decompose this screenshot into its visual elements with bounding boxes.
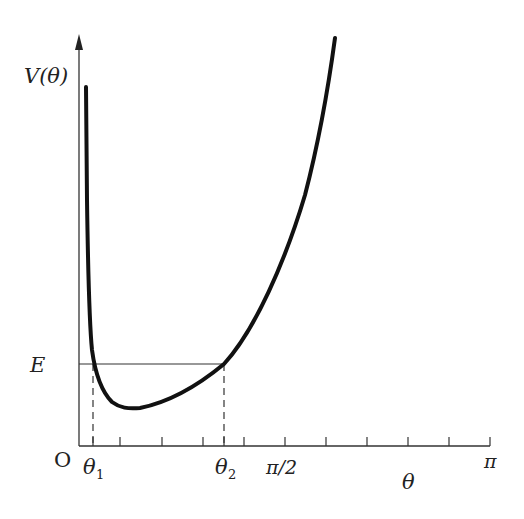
origin-label: O (54, 448, 71, 472)
theta2-subscript: 2 (228, 467, 236, 482)
theta1-label: θ (83, 455, 96, 479)
x-axis-label: θ (402, 470, 415, 494)
half-pi-label: π/2 (265, 456, 297, 478)
potential-diagram: V(θ) E O θ 1 θ 2 π/2 π θ (0, 0, 524, 519)
pi-label: π (483, 450, 497, 472)
y-axis-arrow-icon (75, 34, 83, 50)
theta1-subscript: 1 (96, 467, 104, 482)
energy-label: E (29, 353, 45, 377)
x-axis-ticks (93, 437, 490, 446)
potential-curve (86, 38, 335, 408)
y-axis-label: V(θ) (24, 64, 68, 88)
theta2-label: θ (215, 455, 228, 479)
